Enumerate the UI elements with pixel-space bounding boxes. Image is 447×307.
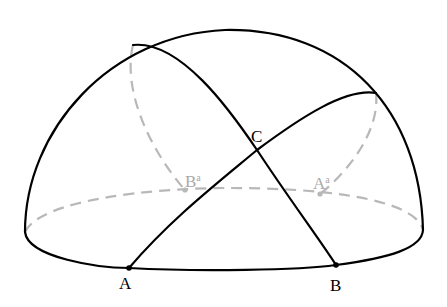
label-b-prime-base: B <box>185 172 196 191</box>
label-b-prime-sup: a <box>196 172 201 183</box>
label-c: C <box>251 127 262 146</box>
hidden-arc-to-b-prime <box>131 45 185 190</box>
arc-a-to-c <box>129 92 376 268</box>
base-ellipse-back-dashed <box>25 188 423 232</box>
dome-outline <box>25 30 423 232</box>
label-a-prime-sup: a <box>325 174 330 185</box>
label-b: B <box>330 276 341 295</box>
point-a-dot <box>126 265 132 271</box>
label-a-prime: Aa <box>313 174 330 193</box>
label-a: A <box>119 274 132 293</box>
base-ellipse-front <box>25 230 423 270</box>
label-a-prime-base: A <box>313 174 326 193</box>
point-b-dot <box>333 262 339 268</box>
hemisphere-diagram: A B C Ba Aa <box>0 0 447 307</box>
